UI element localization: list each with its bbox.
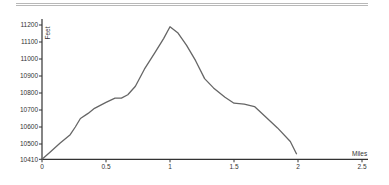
y-tick-label: 11200 — [20, 21, 38, 28]
y-tick-label: 10600 — [20, 123, 38, 130]
x-tick-label: 2 — [296, 163, 300, 170]
x-tick-label: 0 — [40, 163, 44, 170]
y-tick-label: 11000 — [20, 55, 38, 62]
elevation-chart: 1041010500106001070010800109001100011100… — [0, 0, 389, 185]
y-tick-label: 10800 — [20, 89, 38, 96]
x-axis-title: Miles — [352, 150, 368, 157]
y-tick-label: 10410 — [20, 156, 38, 163]
x-tick-label: 0.5 — [101, 163, 110, 170]
y-tick-label: 10700 — [20, 106, 38, 113]
y-tick-label: 10900 — [20, 72, 38, 79]
y-axis-title: Feet — [44, 26, 51, 39]
x-tick-label: 2.5 — [357, 163, 366, 170]
elevation-line — [42, 27, 297, 160]
y-tick-label: 11100 — [21, 38, 38, 45]
y-axis: 1041010500106001070010800109001100011100… — [20, 19, 42, 163]
y-tick-label: 10500 — [20, 140, 38, 147]
x-axis: 00.511.522.5 — [40, 159, 368, 170]
x-tick-label: 1.5 — [229, 163, 238, 170]
x-tick-label: 1 — [168, 163, 172, 170]
